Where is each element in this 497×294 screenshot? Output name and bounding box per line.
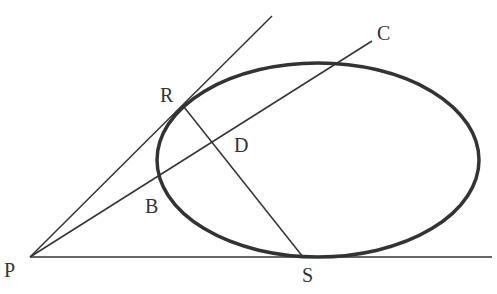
label-B: B	[145, 195, 158, 217]
chord-RS	[184, 107, 303, 257]
label-D: D	[234, 134, 248, 156]
geometry-diagram: P R C D B S	[0, 0, 497, 294]
label-C: C	[377, 22, 390, 44]
label-R: R	[160, 84, 174, 106]
label-S: S	[302, 264, 313, 286]
ellipse	[157, 63, 479, 257]
label-P: P	[4, 259, 15, 281]
